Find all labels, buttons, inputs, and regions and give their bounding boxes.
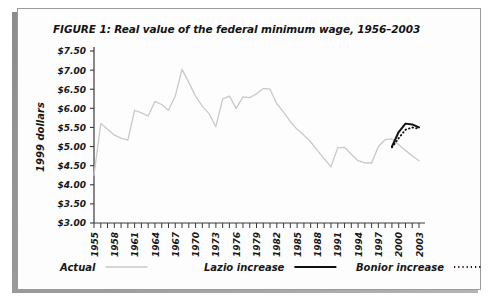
y-axis-tick-label: $3.50 xyxy=(58,199,86,209)
y-axis-tick-label: $6.00 xyxy=(58,104,86,114)
x-axis-tick-label: 1976 xyxy=(232,232,242,257)
y-axis-tick-label: $5.00 xyxy=(58,142,86,152)
legend-label-bonior-increase: Bonior increase xyxy=(356,262,444,273)
series-line-actual xyxy=(94,69,419,175)
x-axis-tick-label: 1961 xyxy=(130,232,140,257)
legend-label-lazio-increase: Lazio increase xyxy=(204,262,285,273)
x-axis-tick-label: 1988 xyxy=(313,232,323,257)
x-axis-tick-label: 2000 xyxy=(394,232,404,257)
x-axis-tick-label: 1955 xyxy=(90,232,100,257)
x-axis-tick-label: 1985 xyxy=(293,232,303,257)
x-axis-tick-label: 1982 xyxy=(272,232,282,257)
x-axis-tick-label: 1979 xyxy=(252,232,262,257)
y-axis-tick-label: $4.50 xyxy=(58,161,86,171)
x-axis-tick-label: 1991 xyxy=(333,232,343,257)
x-axis-tick-label: 1973 xyxy=(211,232,221,257)
x-axis-tick-label: 1958 xyxy=(110,232,120,257)
y-axis-title: 1999 dollars xyxy=(35,102,46,172)
chart-legend: ActualLazio increaseBonior increase xyxy=(59,262,482,273)
x-axis-tick-label: 1964 xyxy=(151,232,161,257)
x-axis-tick-label: 1994 xyxy=(354,232,364,257)
x-axis-tick-label: 1970 xyxy=(191,232,201,257)
x-axis: 1955195819611964196719701973197619791982… xyxy=(90,223,425,257)
y-axis-tick-label: $5.50 xyxy=(58,123,86,133)
y-axis-tick-label: $3.00 xyxy=(58,218,86,228)
y-axis-tick-label: $4.00 xyxy=(58,180,86,190)
figure-panel: FIGURE 1: Real value of the federal mini… xyxy=(17,8,481,290)
screenshot-root: FIGURE 1: Real value of the federal mini… xyxy=(0,0,493,308)
chart-series xyxy=(94,69,419,175)
x-axis-tick-label: 2003 xyxy=(415,232,425,257)
y-axis-tick-label: $7.00 xyxy=(58,66,86,76)
legend-label-actual: Actual xyxy=(59,262,96,273)
x-axis-tick-label: 1997 xyxy=(374,231,384,257)
y-axis: $3.00$3.50$4.00$4.50$5.00$5.50$6.00$6.50… xyxy=(35,46,94,228)
y-axis-tick-label: $7.50 xyxy=(58,46,86,56)
chart-canvas: $3.00$3.50$4.00$4.50$5.00$5.50$6.00$6.50… xyxy=(18,9,482,291)
y-axis-tick-label: $6.50 xyxy=(58,85,86,95)
x-axis-tick-label: 1967 xyxy=(171,231,181,257)
